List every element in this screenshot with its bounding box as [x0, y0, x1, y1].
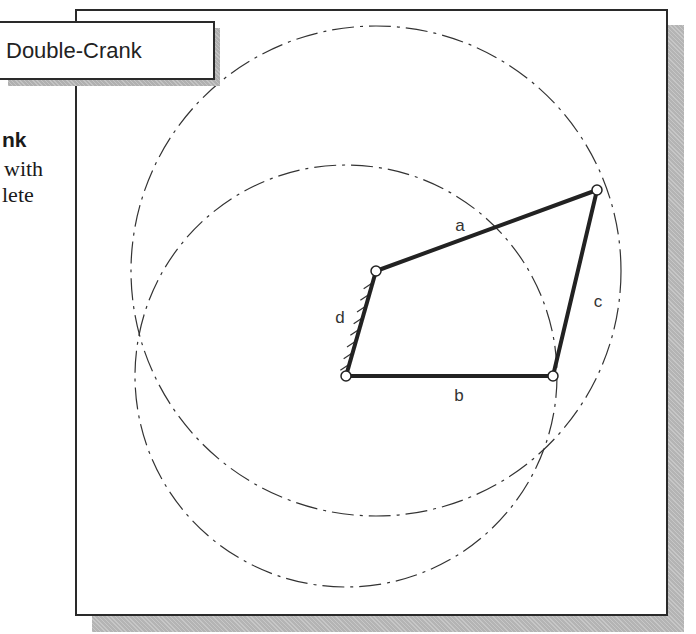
ground-pivot-lower-icon: [341, 371, 351, 381]
link-label-c: c: [594, 292, 603, 311]
link-label-d: d: [335, 308, 344, 327]
title-label: Double-Crank: [0, 38, 142, 64]
link-label-a: a: [455, 216, 465, 235]
coupler-joint-icon: [592, 185, 602, 195]
link-a: [376, 190, 597, 271]
link-d: [346, 271, 376, 376]
joint-right-icon: [548, 371, 558, 381]
ground-pivot-upper-icon: [371, 266, 381, 276]
title-box: Double-Crank: [0, 21, 215, 80]
link-c: [553, 190, 597, 376]
link-label-b: b: [454, 386, 463, 405]
four-bar-linkage-diagram: acbd: [0, 0, 696, 634]
